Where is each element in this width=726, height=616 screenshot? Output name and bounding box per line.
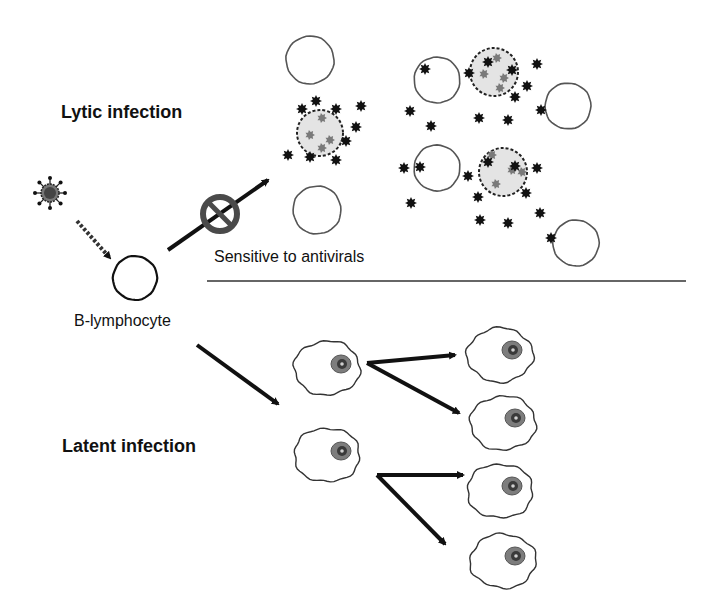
virion-icon: [473, 112, 485, 124]
virion-icon: [398, 162, 410, 174]
uninfected-cell: [293, 186, 341, 234]
virion-icon: [355, 100, 367, 112]
virion-icon: [531, 58, 543, 70]
prohibition-icon: [203, 197, 237, 231]
arrow-div2b: [377, 475, 445, 544]
arrow-div1b: [367, 363, 459, 413]
virion-icon: [545, 232, 557, 244]
uninfected-cell: [286, 36, 334, 84]
virion-icon: [521, 80, 533, 92]
virion-icon: [531, 162, 543, 174]
uninfected-cell: [414, 57, 459, 103]
virion-icon: [474, 214, 486, 226]
virion-icon: [502, 114, 514, 126]
virion-icon: [520, 187, 532, 199]
virion-icon: [350, 121, 362, 133]
virion-icon: [414, 161, 426, 173]
latently-infected-cell: [294, 428, 359, 482]
virion-icon: [304, 151, 316, 163]
virion-icon: [330, 103, 342, 115]
virion-icon: [509, 91, 521, 103]
arrow-div1a: [367, 355, 455, 363]
virion-icon: [472, 191, 484, 203]
virion-icon: [405, 197, 417, 209]
virion-icon: [482, 56, 494, 68]
virion-icon: [509, 160, 521, 172]
daughter-cell: [470, 533, 536, 589]
uninfected-cell: [553, 220, 600, 266]
arrow-to-latent: [197, 345, 278, 404]
virion-icon: [419, 63, 431, 75]
lytic-infection-label: Lytic infection: [61, 103, 182, 121]
uninfected-cell: [545, 83, 591, 128]
lytic-cells: [286, 36, 599, 266]
virion-icon: [463, 67, 475, 79]
latent-infection-label: Latent infection: [62, 437, 196, 455]
virion-icon: [282, 149, 294, 161]
daughter-cell: [469, 396, 537, 450]
virion-icon: [425, 120, 437, 132]
virion-icon: [340, 135, 352, 147]
daughter-cell: [466, 327, 535, 384]
b-lymphocyte-cell: [113, 256, 158, 300]
virion-icon: [482, 156, 494, 168]
virion-icon: [535, 104, 547, 116]
latently-infected-cell: [293, 341, 361, 395]
virion-icon: [296, 103, 308, 115]
b-lymphocyte-label: B-lymphocyte: [74, 313, 171, 329]
virion-icon: [534, 207, 546, 219]
virion-icon: [506, 64, 518, 76]
arrow-infect: [77, 221, 110, 258]
virion-icon: [404, 105, 416, 117]
virion-icon: [502, 217, 514, 229]
sensitive-to-antivirals-label: Sensitive to antivirals: [214, 249, 364, 265]
diagram-canvas: [0, 0, 726, 616]
virion-icon: [330, 154, 342, 166]
virus-particle-icon: [33, 176, 67, 210]
daughter-cell: [468, 464, 533, 518]
virion-icon: [310, 95, 322, 107]
arrows: [77, 180, 463, 544]
virion-icon: [462, 170, 474, 182]
latent-cells: [293, 327, 537, 589]
